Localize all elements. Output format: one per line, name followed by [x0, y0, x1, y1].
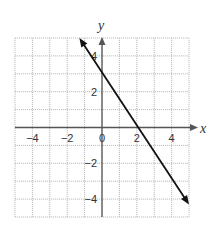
x-tick-label: 2 — [134, 132, 140, 144]
axes — [15, 37, 198, 217]
x-tick-label: −4 — [26, 132, 39, 144]
x-tick-label: 4 — [169, 132, 175, 144]
y-tick-label: 2 — [91, 86, 97, 98]
x-axis-label: x — [199, 121, 207, 136]
y-axis-label: y — [96, 18, 105, 33]
line-segment — [83, 43, 186, 199]
x-axis-arrow-icon — [190, 124, 198, 131]
x-tick-label: 0 — [99, 132, 105, 144]
y-tick-label: −4 — [84, 193, 97, 205]
line-arrow-end-icon — [181, 195, 189, 204]
x-tick-label: −2 — [61, 132, 74, 144]
y-tick-label: −2 — [84, 157, 97, 169]
line-arrow-start-icon — [79, 38, 87, 47]
coordinate-plane: −4−202442−2−4 x y — [0, 0, 210, 226]
plotted-line — [79, 38, 189, 204]
